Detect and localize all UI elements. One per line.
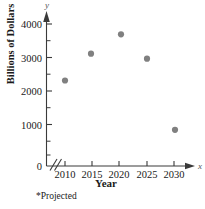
x-tick-label: 2025: [137, 169, 158, 180]
x-axis-arrow: [185, 163, 195, 169]
y-axis-title-text: Billions of Dollars: [5, 4, 16, 85]
data-point: [62, 77, 68, 83]
x-tick-label: 2030: [164, 169, 185, 180]
y-tick-label: 3000: [21, 53, 42, 64]
data-point: [172, 127, 178, 133]
x-axis-title: Year: [95, 177, 117, 189]
y-tick-label: 0: [37, 161, 42, 172]
footnote-text: *Projected: [36, 191, 77, 201]
y-tick-label: 4000: [21, 19, 42, 30]
x-axis-title-text: Year: [95, 177, 117, 189]
x-tick-label: 2010: [55, 169, 76, 180]
x-axis-name-label: x: [197, 161, 202, 171]
x-major-ticks: [65, 161, 174, 166]
y-tick-label: 2000: [21, 86, 42, 97]
y-tick-label: 1000: [21, 120, 42, 131]
data-point: [118, 31, 124, 37]
y-axis-name-label: y: [44, 0, 49, 10]
data-point: [144, 56, 150, 62]
y-axis-title: Billions of Dollars: [5, 0, 19, 104]
y-axis-arrow: [43, 11, 50, 22]
data-point: [88, 51, 94, 57]
footnote: *Projected: [36, 191, 77, 201]
scatter-chart: 4000 3000 2000 1000 0 2010 2015 2020 202…: [0, 0, 205, 209]
